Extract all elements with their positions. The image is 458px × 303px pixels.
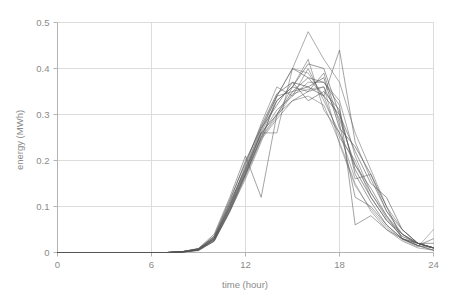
y-tick-labels: 00.10.20.30.40.5 (36, 17, 49, 258)
chart-canvas: 06121824 00.10.20.30.40.5 time (hour) en… (0, 0, 458, 303)
y-tick-label: 0.4 (36, 63, 49, 74)
axis-ticks (54, 23, 434, 257)
x-tick-label: 18 (334, 259, 345, 270)
y-axis-title: energy (MWh) (14, 110, 25, 170)
y-tick-label: 0.5 (36, 17, 49, 28)
x-tick-label: 12 (240, 259, 251, 270)
y-tick-label: 0.1 (36, 201, 49, 212)
y-tick-label: 0.3 (36, 109, 49, 120)
x-tick-labels: 06121824 (55, 259, 439, 270)
energy-profile-chart: 06121824 00.10.20.30.40.5 time (hour) en… (0, 0, 458, 303)
x-axis-title: time (hour) (222, 279, 268, 290)
y-tick-label: 0.2 (36, 155, 49, 166)
x-tick-label: 6 (149, 259, 154, 270)
x-tick-label: 0 (55, 259, 60, 270)
x-tick-label: 24 (428, 259, 439, 270)
y-tick-label: 0 (44, 247, 49, 258)
